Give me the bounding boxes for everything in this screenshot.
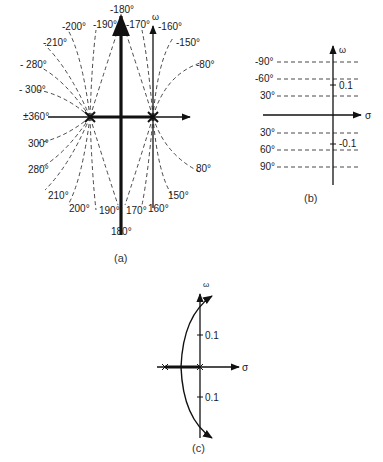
sigma-label-c: σ [242, 362, 249, 373]
contour-80 [153, 117, 200, 172]
contour-180-left [90, 117, 118, 205]
tick-label-b-upper: 0.1 [339, 80, 353, 91]
label-b-minus-90: -90° [255, 56, 273, 67]
label-minus-280: - 280° [20, 59, 47, 70]
label-200: 200° [69, 203, 90, 214]
label-minus-170: -170° [126, 19, 150, 30]
label-180: 180° [111, 226, 132, 237]
figure-a: -180° ω -190° -170° -200° -160° -210° -1… [19, 4, 214, 264]
root-locus-figure: -180° ω -190° -170° -200° -160° -210° -1… [0, 0, 383, 462]
label-160: 160° [148, 203, 169, 214]
tick-label-c-upper: 0.1 [205, 330, 219, 341]
contour-minus-200 [68, 30, 90, 117]
label-minus-300: - 300° [19, 84, 46, 95]
caption-a: (a) [114, 252, 127, 264]
label-minus-190: -190° [93, 19, 117, 30]
figure-c: ω σ 0.1 0.1 (c) [157, 280, 249, 454]
label-minus-160: -160° [158, 21, 182, 32]
label-b-minus-60: -60° [255, 73, 273, 84]
figure-b: ω σ -90° -60° 30° 30° 60° 90° 0.1 -0.1 (… [255, 45, 372, 204]
label-280: 280° [28, 164, 49, 175]
tick-label-c-lower: 0.1 [205, 392, 219, 403]
label-b-30-upper: 30° [260, 90, 275, 101]
label-minus-200: -200° [62, 21, 86, 32]
contour-210 [45, 117, 90, 190]
phase-contours-left-pole [38, 30, 118, 210]
label-minus-210: -210° [43, 37, 67, 48]
tick-label-b-lower: -0.1 [339, 138, 357, 149]
caption-b: (b) [304, 192, 317, 204]
label-300: 300° [28, 138, 49, 149]
contour-minus-150 [153, 38, 173, 117]
contour-190 [90, 117, 96, 210]
contour-minus-210 [45, 45, 90, 117]
label-minus-150: -150° [176, 37, 200, 48]
label-170: 170° [126, 205, 147, 216]
label-80: 80° [196, 163, 211, 174]
label-b-60: 60° [260, 144, 275, 155]
omega-label-c: ω [203, 280, 209, 289]
contour-minus-190 [90, 30, 96, 117]
omega-label-b: ω [339, 45, 346, 55]
sigma-label-b: σ [365, 110, 372, 121]
contour-170 [142, 117, 153, 205]
label-b-90: 90° [260, 161, 275, 172]
contour-minus-170 [142, 30, 153, 117]
label-150: 150° [168, 190, 189, 201]
label-b-30-lower: 30° [260, 127, 275, 138]
label-minus-180: -180° [110, 4, 134, 15]
caption-c: (c) [192, 442, 205, 454]
label-minus-80: -80° [196, 59, 214, 70]
label-210: 210° [48, 190, 69, 201]
contour-150 [153, 117, 172, 195]
label-190: 190° [99, 205, 120, 216]
label-plus-minus-360: ±360° [23, 111, 49, 122]
contour-minus-80 [153, 63, 200, 117]
